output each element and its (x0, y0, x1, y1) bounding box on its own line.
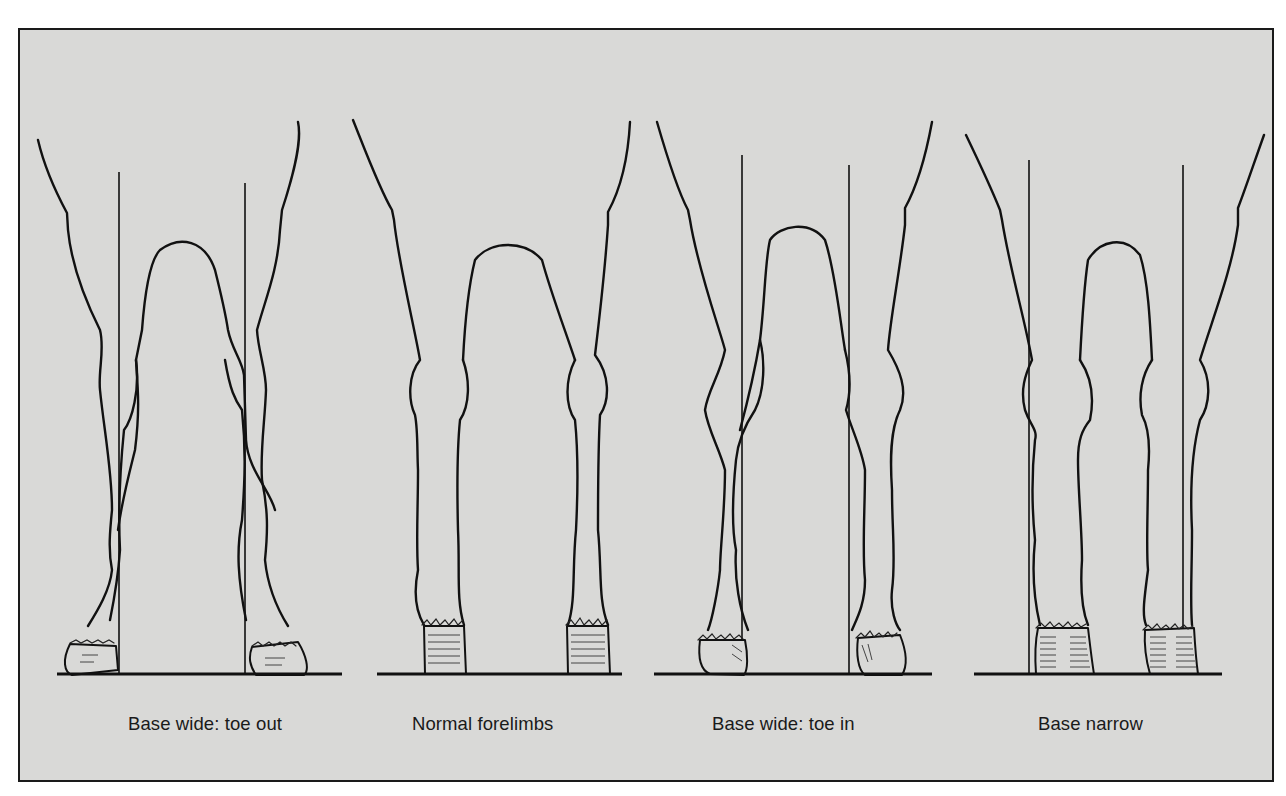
right-leg-outline (888, 122, 932, 630)
right-leg-inner (1140, 360, 1152, 625)
caption-base-narrow: Base narrow (1038, 713, 1143, 735)
left-leg-inner (110, 360, 137, 620)
cut-off-text-line (0, 0, 1286, 8)
panel-base-wide-toe-out (38, 122, 342, 675)
right-leg-outline (595, 122, 630, 625)
left-leg-inner (1078, 360, 1092, 625)
caption-normal-forelimbs: Normal forelimbs (412, 713, 553, 735)
right-leg-outline (257, 122, 299, 626)
right-leg-outline (1191, 135, 1264, 625)
hoof-shading (732, 644, 872, 662)
panel-normal-forelimbs (353, 120, 630, 674)
inner-arch-outline (118, 242, 275, 530)
inner-arch-outline (740, 227, 845, 430)
caption-base-wide-toe-in: Base wide: toe in (712, 713, 855, 735)
right-coronet (566, 618, 607, 625)
figure-frame: Base wide: toe out Normal forelimbs Base… (18, 28, 1274, 782)
panel-base-wide-toe-in (654, 122, 932, 675)
right-hoof (250, 642, 307, 675)
left-coronet (422, 619, 463, 625)
left-hoof (699, 640, 747, 675)
caption-base-wide-toe-out: Base wide: toe out (128, 713, 282, 735)
left-hoof (424, 626, 466, 674)
inner-arch-outline (463, 245, 575, 360)
left-hoof (65, 644, 118, 675)
right-hoof (857, 635, 905, 675)
right-hoof (567, 626, 610, 674)
left-leg-inner (733, 340, 763, 630)
inner-arch-outline (1080, 242, 1152, 360)
forelimb-conformation-illustration (20, 30, 1272, 780)
right-leg-inner (845, 350, 865, 630)
panel-base-narrow (966, 135, 1264, 674)
left-leg-outline (657, 122, 725, 630)
right-leg-inner (568, 360, 578, 625)
right-leg-inner (225, 360, 246, 620)
left-leg-inner (457, 360, 468, 625)
left-coronet (70, 640, 114, 643)
left-leg-outline (353, 120, 424, 625)
left-leg-outline (38, 140, 112, 626)
